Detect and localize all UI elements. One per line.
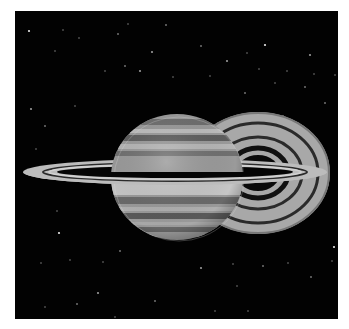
star	[114, 316, 115, 317]
star	[331, 260, 332, 261]
star	[154, 300, 155, 301]
star	[232, 263, 233, 264]
star	[97, 292, 99, 294]
star	[214, 310, 215, 311]
star	[200, 45, 201, 46]
star	[287, 262, 288, 263]
star	[247, 310, 248, 311]
star	[117, 33, 118, 34]
star	[334, 74, 335, 75]
star	[44, 125, 45, 126]
star	[264, 44, 266, 46]
space-image	[15, 11, 338, 319]
star	[127, 23, 128, 24]
star	[236, 285, 237, 286]
star	[62, 29, 63, 30]
star	[139, 70, 141, 72]
star	[104, 70, 105, 71]
star	[44, 306, 45, 307]
star	[309, 54, 311, 56]
star	[40, 262, 41, 263]
star	[58, 232, 60, 234]
star	[310, 276, 311, 277]
star	[304, 86, 305, 87]
star	[200, 267, 202, 269]
star	[74, 105, 75, 106]
star	[30, 108, 32, 110]
star	[246, 52, 247, 53]
star	[244, 92, 245, 93]
star	[102, 261, 103, 262]
star	[258, 68, 259, 69]
star	[54, 50, 55, 51]
star	[286, 70, 287, 71]
star	[209, 75, 210, 76]
star	[28, 30, 30, 32]
star	[324, 102, 325, 103]
star	[35, 148, 36, 149]
saturn-scene	[15, 11, 338, 319]
star	[333, 246, 335, 248]
star	[226, 60, 228, 62]
star	[151, 51, 153, 53]
star	[76, 303, 77, 304]
star	[172, 76, 173, 77]
star	[274, 82, 275, 83]
star	[262, 265, 263, 266]
star	[56, 210, 57, 211]
star	[165, 24, 166, 25]
star	[119, 250, 120, 251]
star	[124, 65, 125, 66]
star	[313, 73, 314, 74]
star	[78, 37, 79, 38]
star	[69, 259, 70, 260]
